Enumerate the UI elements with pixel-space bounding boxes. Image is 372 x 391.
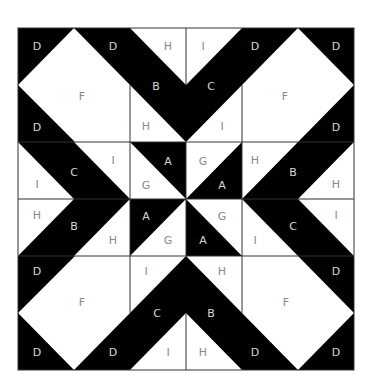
patch-label-tl-f: F [79, 90, 85, 103]
patch-label-tl-d1: D [33, 40, 41, 53]
patch-label-l-i2: I [35, 178, 38, 191]
patch-label-tr-d2: D [332, 40, 340, 53]
patch-label-r-b: B [289, 166, 297, 179]
patch-label-bl-f: F [79, 296, 85, 309]
patch-label-c-g3: G [218, 210, 227, 223]
patch-label-r-h1: H [251, 154, 259, 167]
patch-label-c-a2: A [218, 179, 226, 192]
patch-label-br-d1: D [332, 265, 340, 278]
patch-label-r-i1: I [334, 209, 337, 222]
patch-label-c-a1: A [164, 155, 172, 168]
patch-label-c-a3: A [142, 210, 150, 223]
patch-label-c-a4: A [199, 234, 207, 247]
patch-label-t-i: I [201, 40, 204, 53]
patch-label-tr-f: F [282, 90, 288, 103]
patch-label-t-b: B [152, 80, 160, 93]
patch-label-l-h1: H [33, 209, 41, 222]
patch-label-t-i2: I [220, 120, 223, 133]
patch-label-r-h2: H [332, 178, 340, 191]
patch-label-tl-d2: D [109, 40, 117, 53]
patch-label-bl-d3: D [109, 346, 117, 359]
patch-label-tr-d1: D [251, 40, 259, 53]
patch-label-b-i: I [144, 265, 147, 278]
patch-label-b-h: H [218, 265, 226, 278]
patch-label-t-h2: H [142, 120, 150, 133]
patch-label-b-h2: H [199, 346, 207, 359]
patch-label-br-f: F [283, 296, 289, 309]
quilt-block-diagram: DDHIDDFBCFDHIDCIAGHBIGAHHBAGICHGAIDIHDFF… [0, 0, 372, 391]
patch-label-l-h2: H [109, 234, 117, 247]
patch-label-bl-d1: D [33, 265, 41, 278]
patch-label-l-c: C [70, 166, 78, 179]
patch-label-br-d3: D [332, 346, 340, 359]
patch-label-bl-d2: D [33, 346, 41, 359]
patch-label-c-g1: G [199, 155, 208, 168]
patch-label-b-i2: I [166, 346, 169, 359]
patch-label-r-i2: I [253, 234, 256, 247]
patch-label-b-c: C [153, 307, 161, 320]
patch-label-c-g4: G [164, 234, 173, 247]
patch-label-l-i1: I [111, 154, 114, 167]
patch-label-tr-d3: D [332, 121, 340, 134]
patch-label-br-d2: D [251, 346, 259, 359]
patch-label-tl-d3: D [33, 121, 41, 134]
patch-label-c-g2: G [142, 179, 151, 192]
patch-label-b-b: B [207, 307, 215, 320]
patch-label-t-h: H [164, 40, 172, 53]
patch-label-t-c: C [207, 80, 215, 93]
patch-label-r-c: C [289, 220, 297, 233]
patch-label-l-b: B [70, 220, 78, 233]
